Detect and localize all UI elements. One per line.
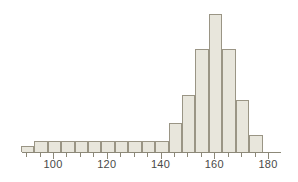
x-axis-minor-tick [40,153,41,157]
x-axis-minor-tick [255,153,256,157]
x-axis-minor-tick [26,153,27,157]
x-axis-minor-tick [66,153,67,157]
histogram-bar [88,141,101,153]
histogram-bar [142,141,155,153]
x-axis-minor-tick [93,153,94,157]
x-axis-minor-tick [80,153,81,157]
x-axis-tick-label: 140 [151,158,170,170]
x-axis-minor-tick [201,153,202,157]
histogram-bar [75,141,88,153]
x-axis-minor-tick [241,153,242,157]
histogram-bar [249,135,262,152]
x-axis-tick-label: 180 [259,158,278,170]
x-axis-tick-label: 120 [97,158,116,170]
histogram-bar [101,141,114,153]
histogram-bar [128,141,141,153]
x-axis-minor-tick [120,153,121,157]
x-axis-line [22,152,281,153]
histogram-bar [61,141,74,153]
histogram-bar [209,14,222,152]
histogram-bar [222,49,235,153]
x-axis-tick-label: 160 [205,158,224,170]
x-axis-tick-label: 100 [44,158,63,170]
x-axis-minor-tick [174,153,175,157]
histogram-bar [115,141,128,153]
plot-area [0,0,298,182]
x-axis-minor-tick [187,153,188,157]
x-axis-minor-tick [134,153,135,157]
histogram-bar [169,123,182,152]
x-axis-minor-tick [228,153,229,157]
histogram-bar [182,95,195,153]
histogram-bar [48,141,61,153]
x-axis-minor-tick [147,153,148,157]
histogram-bar [155,141,168,153]
histogram-bar [236,100,249,152]
histogram-bar [195,49,208,153]
histogram-bar [34,141,47,153]
histogram-chart: 100120140160180 [0,0,298,182]
